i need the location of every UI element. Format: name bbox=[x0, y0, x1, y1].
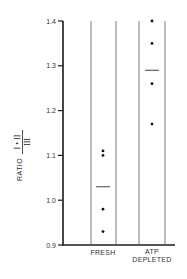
data-point bbox=[151, 123, 154, 126]
y-axis-label-prefix: RATIO bbox=[16, 158, 23, 181]
y-tick-label: 1.3 bbox=[46, 62, 56, 69]
y-axis-label-denominator: III bbox=[23, 138, 32, 146]
data-point bbox=[151, 42, 154, 45]
category-label-fresh: FRESH bbox=[90, 249, 115, 256]
data-point bbox=[102, 230, 105, 233]
data-points bbox=[102, 20, 154, 233]
y-tick-label: 1.1 bbox=[46, 152, 56, 159]
category-lanes bbox=[91, 21, 165, 245]
category-label-atp: ATP bbox=[145, 248, 159, 255]
data-point bbox=[102, 154, 105, 157]
data-point bbox=[151, 20, 154, 23]
y-tick-label: 1.0 bbox=[46, 197, 56, 204]
data-point bbox=[102, 208, 105, 211]
y-ticks: 0.91.01.11.21.31.4 bbox=[46, 18, 63, 249]
y-tick-label: 0.9 bbox=[46, 242, 56, 249]
y-axis-label-numerator: I • II bbox=[13, 134, 22, 149]
ratio-scatter-chart: 0.91.01.11.21.31.4 FRESH ATP DEPLETED RA… bbox=[0, 0, 187, 279]
y-axis-label: RATIO I • II III bbox=[13, 130, 32, 181]
y-tick-label: 1.2 bbox=[46, 107, 56, 114]
mean-lines bbox=[96, 70, 159, 186]
data-point bbox=[151, 82, 154, 85]
y-tick-label: 1.4 bbox=[46, 18, 56, 25]
category-label-depleted: DEPLETED bbox=[132, 256, 171, 263]
data-point bbox=[102, 150, 105, 153]
